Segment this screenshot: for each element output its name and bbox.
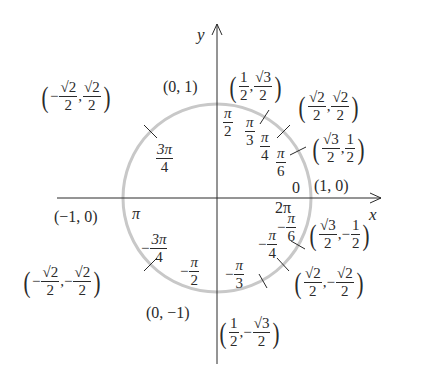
- coord-pi-over-4: ( √22, √22 ): [297, 90, 360, 123]
- coord-pi-over-3: ( 12, √32 ): [228, 70, 283, 103]
- angle-neg-pi-over-4: −π4: [258, 228, 278, 261]
- angle-zero: 0: [292, 180, 300, 196]
- angle-pi: π: [132, 206, 140, 222]
- angle-pi-over-3: π3: [244, 115, 256, 148]
- coord-pos-y: (0, 1): [163, 79, 198, 95]
- tick-pi-over-3: [260, 110, 269, 124]
- angle-pi-over-6: π6: [275, 146, 287, 179]
- unit-circle-diagram: y x (0, 1) (1, 0) (−1, 0) (0, −1) 0 2π π…: [0, 0, 423, 384]
- coord-neg-y: (0, −1): [146, 305, 190, 321]
- angle-pi-over-4: π4: [259, 130, 271, 163]
- y-axis-label: y: [197, 26, 205, 43]
- angle-neg-pi-over-6: −π6: [277, 211, 297, 244]
- angle-neg-pi-over-2: −π2: [180, 255, 200, 288]
- angle-3pi-over-4: 3π4: [155, 142, 174, 175]
- coord-neg-pi-over-6: ( √32, −12 ): [308, 218, 371, 251]
- diagram-graphics: [0, 0, 423, 384]
- coord-pi-over-6: ( √32, 12 ): [311, 132, 366, 165]
- coord-3pi-over-4: ( −√22, √22 ): [40, 80, 112, 113]
- angle-neg-pi-over-3: −π3: [225, 258, 245, 291]
- angle-neg-3pi-over-4: −3π4: [141, 232, 168, 265]
- coord-neg-pi-over-4: ( √22, −√22 ): [293, 266, 365, 299]
- coord-neg-pi-over-3: ( 12, −√32 ): [218, 316, 281, 349]
- coord-neg-x: (−1, 0): [54, 209, 98, 225]
- coord-pos-x: (1, 0): [314, 178, 349, 194]
- angle-pi-over-2: π2: [222, 106, 234, 139]
- coord-neg-3pi-over-4: ( −√22, −√22 ): [22, 265, 102, 298]
